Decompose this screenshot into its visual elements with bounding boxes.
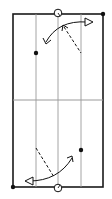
open-triangle-icon bbox=[85, 18, 93, 26]
court-svg bbox=[0, 0, 112, 199]
bottom-dashed-line bbox=[36, 148, 54, 177]
player-top-center bbox=[54, 9, 62, 17]
dot-bottom-left-corner bbox=[11, 185, 15, 189]
dot-top-left-lane bbox=[34, 51, 38, 55]
player-bottom-center bbox=[54, 184, 62, 192]
bottom-curved-arrow bbox=[29, 158, 72, 181]
open-triangle-icon bbox=[25, 177, 33, 185]
court-diagram: Court drill diagram bbox=[0, 0, 112, 199]
dot-top-right-corner bbox=[101, 12, 105, 16]
dot-bottom-right-lane bbox=[79, 148, 83, 152]
top-dashed-arrow bbox=[64, 27, 81, 53]
